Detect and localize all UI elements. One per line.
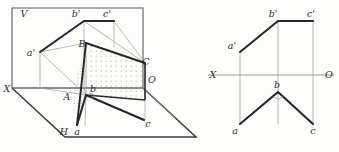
label-point-C-pictorial: C [142,56,150,67]
label-point-A-pictorial: A [63,91,71,102]
label-point-a-pictorial: a [74,126,80,137]
label-point-a-prime-pictorial: a' [27,47,35,58]
v-trace-polyline [40,21,114,52]
label-point-B-pictorial: B [78,38,86,49]
label-point-c-pictorial: c [145,118,151,129]
label-point-c-orthographic: c [310,125,316,136]
label-axis-x-orthographic: X [209,69,218,80]
label-point-a-prime-orthographic: a' [228,40,236,51]
pictorial-view: V H X O a' b' c' B C A b a c [3,8,196,138]
label-point-c-prime-pictorial: c' [103,8,111,19]
label-horizontal-plane: H [59,126,69,137]
label-point-b-prime-orthographic: b' [269,8,278,19]
projector-lines [240,21,313,124]
front-view-polyline [240,21,313,52]
label-point-b-prime-pictorial: b' [72,8,81,19]
label-vertical-plane: V [21,8,29,19]
technical-drawing-canvas: V H X O a' b' c' B C A b a c [0,0,339,152]
diagram-root: V H X O a' b' c' B C A b a c [0,0,339,152]
label-axis-o-orthographic: O [325,69,333,80]
label-point-b-pictorial: b [90,83,96,94]
label-point-c-prime-orthographic: c' [307,8,315,19]
label-axis-o-pictorial: O [148,74,156,85]
axis-extension-right [143,88,175,118]
label-point-a-orthographic: a [232,125,238,136]
label-axis-x-pictorial: X [3,83,12,94]
orthographic-view: X O a' b' c' b a c [208,8,334,136]
h-trace-polyline [77,95,145,125]
top-view-polyline [240,92,313,124]
label-point-b-orthographic: b [274,79,280,90]
